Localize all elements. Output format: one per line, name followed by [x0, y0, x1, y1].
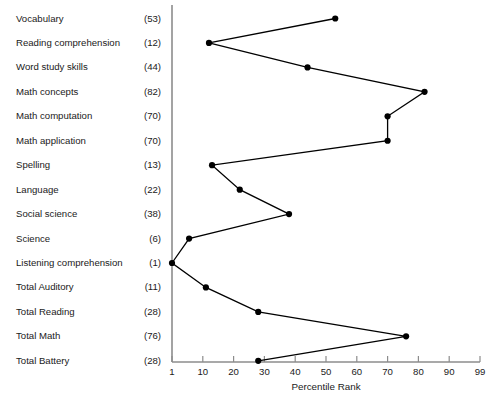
data-markers — [169, 15, 428, 364]
plot-area — [0, 0, 490, 407]
data-point-marker — [255, 309, 261, 315]
x-axis-title: Percentile Rank — [172, 381, 480, 392]
x-tick-label: 70 — [375, 366, 401, 378]
percentile-rank-profile-chart: Vocabulary(53)Reading comprehension(12)W… — [0, 0, 490, 407]
x-tick-label: 10 — [190, 366, 216, 378]
x-tick-label: 50 — [313, 366, 339, 378]
axis-lines — [172, 5, 480, 362]
data-point-marker — [186, 235, 192, 241]
x-tick-label: 90 — [436, 366, 462, 378]
data-point-marker — [169, 260, 175, 266]
x-tick-label: 40 — [282, 366, 308, 378]
data-point-marker — [421, 89, 427, 95]
data-point-marker — [237, 187, 243, 193]
x-axis-ticks — [172, 356, 480, 362]
x-tick-label: 80 — [405, 366, 431, 378]
x-tick-label: 20 — [221, 366, 247, 378]
data-line — [172, 19, 425, 361]
data-point-marker — [332, 15, 338, 21]
data-point-marker — [209, 162, 215, 168]
x-tick-label: 1 — [159, 366, 185, 378]
x-tick-label: 30 — [251, 366, 277, 378]
data-point-marker — [403, 333, 409, 339]
data-point-marker — [286, 211, 292, 217]
data-point-marker — [206, 40, 212, 46]
x-tick-label: 60 — [344, 366, 370, 378]
data-point-marker — [385, 138, 391, 144]
data-point-marker — [304, 64, 310, 70]
data-point-marker — [255, 358, 261, 364]
data-point-marker — [385, 113, 391, 119]
data-point-marker — [203, 284, 209, 290]
x-tick-label: 99 — [467, 366, 490, 378]
